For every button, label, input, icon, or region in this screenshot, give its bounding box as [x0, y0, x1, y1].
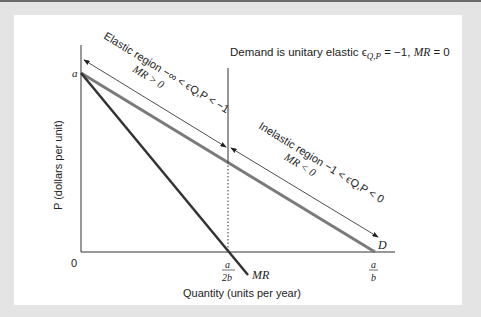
origin-label: 0 — [71, 257, 77, 269]
mr-label: MR — [251, 268, 270, 282]
y-axis-label: P (dollars per unit) — [52, 120, 64, 210]
x-end-num: a — [371, 259, 376, 270]
x-mid-num: a — [225, 259, 230, 270]
x-axis-label: Quantity (units per year) — [183, 287, 301, 299]
y-intercept-label: a — [72, 67, 78, 79]
elastic-region-label: Elastic region −∞ < ϵQ,P < −1 — [102, 29, 232, 115]
unitary-annotation: Demand is unitary elastic ϵQ,P = −1, MR … — [230, 46, 450, 61]
x-mid-den: 2b — [222, 272, 232, 283]
x-end-den: b — [371, 272, 376, 283]
demand-mr-diagram: a 0 a 2b a b D MR Quantity (units per ye… — [0, 0, 481, 317]
demand-label: D — [377, 238, 387, 252]
